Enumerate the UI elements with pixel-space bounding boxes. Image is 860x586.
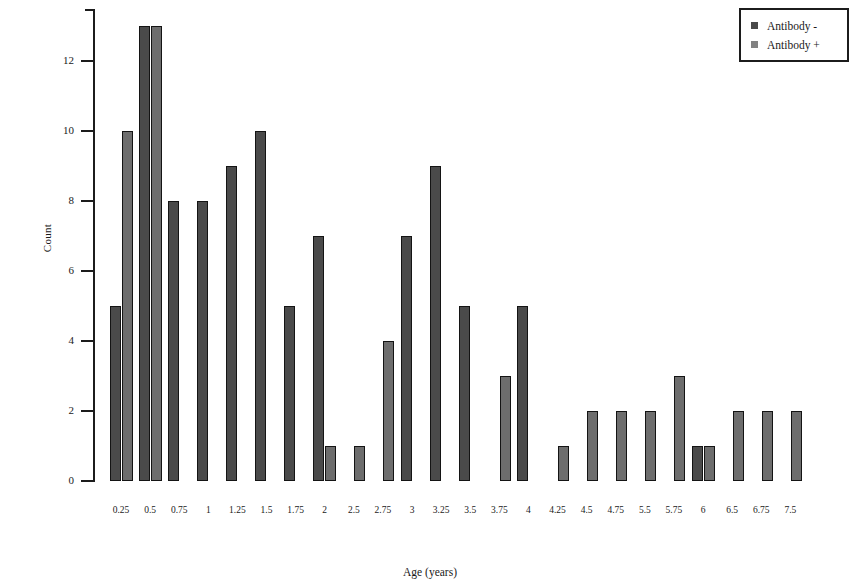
bar (430, 166, 441, 481)
y-axis-tick-label: 4 (38, 335, 74, 346)
x-axis-tick-label: 4.25 (549, 505, 566, 515)
y-axis-tick (81, 410, 94, 412)
x-axis-tick-label: 0.75 (171, 505, 188, 515)
legend-item: Antibody - (751, 16, 847, 35)
bar (616, 411, 627, 481)
y-axis-cap (85, 9, 95, 11)
bar (459, 306, 470, 481)
bar (704, 446, 715, 481)
x-axis-tick-label: 2.5 (348, 505, 360, 515)
bar (645, 411, 656, 481)
x-axis-tick-label: 5.5 (639, 505, 651, 515)
bar (558, 446, 569, 481)
bar (255, 131, 266, 481)
legend-item-label: Antibody - (767, 20, 817, 32)
bar (168, 201, 179, 481)
x-axis-tick-label: 3.75 (491, 505, 508, 515)
bar (110, 306, 121, 481)
y-axis-tick (81, 340, 94, 342)
bar (762, 411, 773, 481)
bar (354, 446, 365, 481)
y-axis-tick-label: 6 (38, 265, 74, 276)
x-axis-tick-label: 4 (526, 505, 531, 515)
bar (313, 236, 324, 481)
x-axis-tick-label: 1.5 (261, 505, 273, 515)
legend-swatch-icon (751, 22, 758, 29)
plot-area (95, 9, 840, 481)
bar (284, 306, 295, 481)
x-axis-tick-label: 3 (410, 505, 415, 515)
y-axis-tick-label: 2 (38, 405, 74, 416)
x-axis-tick-label: 4.5 (581, 505, 593, 515)
x-axis-tick-label: 0.5 (144, 505, 156, 515)
legend-item-label: Antibody + (767, 39, 820, 51)
x-axis-tick-label: 2.75 (375, 505, 392, 515)
histogram-chart: Count 024681012 0.250.50.7511.251.51.752… (0, 0, 860, 586)
x-axis-tick-label: 3.25 (433, 505, 450, 515)
y-axis-tick-label: 10 (38, 125, 74, 136)
bar (692, 446, 703, 481)
x-axis-tick-label: 2 (322, 505, 327, 515)
y-axis-tick (81, 130, 94, 132)
x-axis-tick-label: 1.75 (287, 505, 304, 515)
y-axis-tick (81, 60, 94, 62)
y-axis-cap (85, 480, 95, 482)
bar (383, 341, 394, 481)
bar (733, 411, 744, 481)
bar (674, 376, 685, 481)
x-axis-tick-label: 1 (206, 505, 211, 515)
bar (122, 131, 133, 481)
bar (791, 411, 802, 481)
y-axis-tick-label: 0 (38, 475, 74, 486)
chart-legend: Antibody -Antibody + (739, 8, 849, 62)
x-axis-tick-label: 0.25 (113, 505, 130, 515)
x-axis-tick-label: 6 (701, 505, 706, 515)
bar (500, 376, 511, 481)
bar (197, 201, 208, 481)
x-axis-tick-label: 1.25 (229, 505, 246, 515)
y-axis-tick-label: 8 (38, 195, 74, 206)
x-axis-tick-label: 6.75 (753, 505, 770, 515)
bar (325, 446, 336, 481)
legend-swatch-icon (751, 41, 758, 48)
bar (587, 411, 598, 481)
bar (151, 26, 162, 481)
legend-item: Antibody + (751, 35, 847, 54)
y-axis-tick (81, 200, 94, 202)
bar (139, 26, 150, 481)
y-axis-tick-label: 12 (38, 55, 74, 66)
x-axis-tick-label: 7.5 (784, 505, 796, 515)
x-axis-tick-label: 4.75 (607, 505, 624, 515)
x-axis-tick-label: 3.5 (464, 505, 476, 515)
bar (226, 166, 237, 481)
bar (517, 306, 528, 481)
x-axis-tick-label: 5.75 (666, 505, 683, 515)
bar (401, 236, 412, 481)
x-axis-title: Age (years) (0, 566, 860, 578)
y-axis-tick (81, 270, 94, 272)
x-axis-tick-label: 6.5 (726, 505, 738, 515)
